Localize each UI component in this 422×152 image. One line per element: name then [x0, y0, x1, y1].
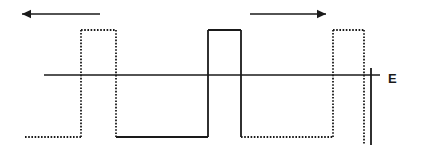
- left-arrow: [22, 10, 100, 18]
- right-arrow-head: [317, 10, 326, 18]
- waveform-group: [25, 30, 371, 145]
- right-arrow: [250, 10, 326, 18]
- waveform-diagram: E: [0, 0, 422, 152]
- direction-arrows-group: [22, 10, 326, 18]
- figure-container: E: [0, 0, 422, 152]
- left-arrow-head: [22, 10, 31, 18]
- energy-axis-label: E: [388, 71, 397, 86]
